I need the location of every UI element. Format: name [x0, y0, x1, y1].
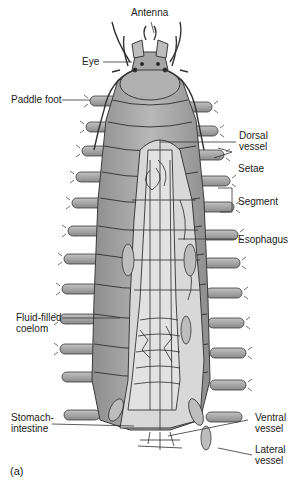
eye-dot [140, 62, 143, 65]
label-eye: Eye [82, 56, 99, 67]
label-stomach-intestine: Stomach- intestine [11, 412, 54, 434]
label-segment: Segment [238, 196, 278, 207]
panel-label: (a) [10, 466, 23, 477]
head [120, 40, 180, 100]
label-dorsal-vessel: Dorsal vessel [239, 130, 268, 152]
worm-anatomy-figure: Antenna Eye Paddle foot Dorsal vessel Se… [0, 0, 298, 490]
label-fluid-filled-coelom: Fluid-filled coelom [16, 312, 62, 334]
label-lateral-vessel: Lateral vessel [255, 444, 286, 466]
label-paddle-foot: Paddle foot [11, 94, 62, 105]
label-antenna: Antenna [131, 7, 168, 18]
label-esophagus: Esophagus [238, 234, 288, 245]
label-ventral-vessel: Ventral vessel [255, 412, 286, 434]
label-setae: Setae [238, 163, 264, 174]
